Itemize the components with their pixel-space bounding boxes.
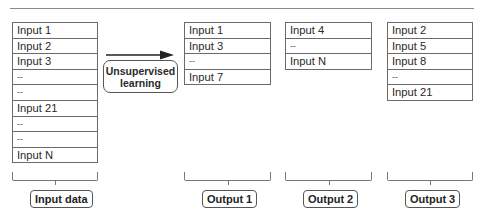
method-line-2: learning [104,77,177,89]
table-row: -- [185,54,270,70]
table-row: -- [388,70,472,86]
output-2-bracket [285,172,372,181]
unsupervised-learning-box: Unsupervised learning [103,60,178,93]
table-row: Input 2 [388,23,472,39]
table-row: Input 7 [185,70,270,86]
output-3-table: Input 2 Input 5 Input 8 -- Input 21 [387,22,473,101]
output-1-table: Input 1 Input 3 -- Input 7 [184,22,271,85]
output-2-label: Output 2 [303,190,358,208]
table-row: Input 5 [388,39,472,55]
table-row: Input 3 [13,54,97,70]
table-row: Input 21 [13,101,97,117]
top-rule [10,8,474,9]
table-row: -- [13,117,97,133]
input-data-label: Input data [30,190,93,208]
table-row: Input 1 [185,23,270,39]
table-row: Input 8 [388,54,472,70]
table-row: Input N [286,54,371,70]
table-row: Input 21 [388,85,472,101]
table-row: Input 2 [13,39,97,55]
output-3-bracket [387,172,473,181]
output-2-table: Input 4 -- Input N [285,22,372,70]
output-3-label: Output 3 [405,190,460,208]
output-1-bracket [184,172,271,181]
input-data-table: Input 1 Input 2 Input 3 -- -- Input 21 -… [12,22,98,163]
table-row: -- [13,132,97,148]
table-row: Input N [13,148,97,164]
table-row: Input 3 [185,39,270,55]
input-bracket [12,172,98,181]
table-row: -- [13,85,97,101]
method-line-1: Unsupervised [104,65,177,77]
table-row: Input 4 [286,23,371,39]
right-arrow-icon [106,50,174,60]
table-row: -- [286,39,371,55]
table-row: -- [13,70,97,86]
output-1-label: Output 1 [202,190,257,208]
table-row: Input 1 [13,23,97,39]
